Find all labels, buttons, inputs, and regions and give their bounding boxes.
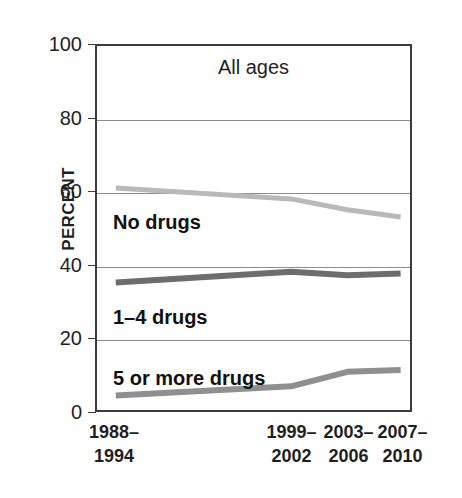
x-tick-label-line2: 2010 xyxy=(357,444,447,468)
y-tick-label-0: 0 xyxy=(36,402,82,422)
y-tick-label-100: 100 xyxy=(36,34,82,54)
series-label-no-drugs: No drugs xyxy=(113,212,201,232)
x-tick-label-2007-2010: 2007–2010 xyxy=(357,420,447,469)
y-tick-label-40: 40 xyxy=(36,255,82,275)
line-chart: PERCENT 020406080100 All ages No drugs 1… xyxy=(0,0,462,498)
series-label-1-4-drugs: 1–4 drugs xyxy=(113,307,207,327)
plot-area: All ages No drugs 1–4 drugs 5 or more dr… xyxy=(95,44,412,412)
x-tick-label-line2: 1994 xyxy=(69,444,159,468)
y-tick-label-80: 80 xyxy=(36,108,82,128)
x-tick-label-line1: 2007– xyxy=(357,420,447,444)
y-tick-label-60: 60 xyxy=(36,181,82,201)
x-tick-label-line1: 1988– xyxy=(69,420,159,444)
x-tick-label-1988-1994: 1988–1994 xyxy=(69,420,159,469)
y-tick-label-20: 20 xyxy=(36,328,82,348)
y-axis-title: PERCENT xyxy=(59,149,81,269)
series-line-1-4-drugs xyxy=(116,272,401,283)
series-label-5-or-more-drugs: 5 or more drugs xyxy=(113,368,265,388)
y-tick-mark-0 xyxy=(88,412,96,413)
